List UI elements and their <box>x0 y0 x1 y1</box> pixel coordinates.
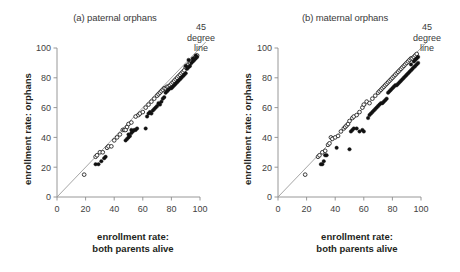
y-axis-ticks: 020406080100 <box>257 43 278 202</box>
y-tick-label: 20 <box>41 163 51 173</box>
y-tick-label: 100 <box>257 43 272 53</box>
panel-b-xlabel-line2: both parents alive <box>230 243 460 255</box>
data-point <box>97 162 101 166</box>
y-tick-label: 40 <box>41 133 51 143</box>
y-tick-label: 60 <box>41 103 51 113</box>
series-open-circles <box>303 52 418 176</box>
data-point <box>144 106 148 110</box>
panel-paternal-orphans: (a) paternal orphans 0204060801000204060… <box>0 0 230 272</box>
data-point <box>112 139 116 143</box>
data-point <box>141 110 145 114</box>
data-point <box>109 144 113 148</box>
data-point <box>118 133 122 137</box>
data-point <box>144 127 148 131</box>
annotation-line-1: 45 <box>176 22 226 33</box>
x-tick-label: 40 <box>109 204 119 214</box>
data-point <box>409 63 413 67</box>
data-point <box>184 72 188 76</box>
data-point <box>318 153 322 157</box>
data-point <box>187 58 191 62</box>
x-tick-label: 100 <box>413 204 428 214</box>
data-point <box>355 113 359 117</box>
data-point <box>328 142 332 146</box>
y-tick-label: 60 <box>262 103 272 113</box>
x-tick-label: 100 <box>192 204 207 214</box>
x-tick-label: 80 <box>387 204 397 214</box>
x-tick-label: 20 <box>302 204 312 214</box>
data-point <box>101 150 105 154</box>
data-point <box>150 100 154 104</box>
data-point <box>336 134 340 138</box>
series-filled-circles <box>319 55 420 166</box>
data-point <box>325 154 329 158</box>
y-tick-label: 20 <box>262 163 272 173</box>
x-tick-label: 0 <box>275 204 280 214</box>
data-point <box>147 103 151 107</box>
panel-b-ylabel: enrollment rate: orphans <box>242 73 253 185</box>
y-tick-label: 40 <box>262 133 272 143</box>
y-tick-label: 0 <box>267 192 272 202</box>
panel-b-45-degree-annotation: 45 degree line <box>402 22 452 54</box>
data-point <box>130 121 134 125</box>
y-tick-label: 0 <box>46 192 51 202</box>
annotation-line-1: 45 <box>402 22 452 33</box>
x-axis-ticks: 020406080100 <box>54 197 207 214</box>
data-point <box>362 130 366 134</box>
data-point <box>152 97 156 101</box>
data-point <box>322 159 326 163</box>
data-point <box>115 136 119 140</box>
series-open-circles <box>82 54 199 177</box>
data-point <box>371 97 375 101</box>
data-point <box>416 55 420 59</box>
x-tick-label: 20 <box>81 204 91 214</box>
data-point <box>135 127 139 131</box>
data-point <box>385 97 389 101</box>
data-point <box>348 119 352 123</box>
annotation-line-2: degree <box>402 33 452 44</box>
data-point <box>95 153 99 157</box>
data-point <box>100 159 104 163</box>
data-point <box>323 149 327 153</box>
x-tick-label: 60 <box>138 204 148 214</box>
x-tick-label: 40 <box>330 204 340 214</box>
x-tick-label: 0 <box>54 204 59 214</box>
data-point <box>82 173 86 177</box>
data-point <box>339 130 343 134</box>
panel-a-xlabel-line1: enrollment rate: <box>0 231 248 243</box>
data-point <box>368 101 372 105</box>
y-tick-label: 80 <box>41 73 51 83</box>
panel-a-ylabel: enrollment rate: orphans <box>22 73 33 185</box>
data-point <box>335 146 339 150</box>
figure-container: (a) paternal orphans 0204060801000204060… <box>0 0 460 272</box>
data-point <box>303 173 307 177</box>
annotation-line-2: degree <box>176 33 226 44</box>
data-point <box>348 148 352 152</box>
y-tick-label: 100 <box>36 43 51 53</box>
x-axis-ticks: 020406080100 <box>275 197 428 214</box>
data-point <box>163 95 167 99</box>
panel-a-xlabel-line2: both parents alive <box>0 243 248 255</box>
panel-b-xlabel-line1: enrollment rate: <box>230 231 460 243</box>
data-point <box>355 127 359 131</box>
annotation-line-3: line <box>402 43 452 54</box>
data-point <box>104 155 108 159</box>
panel-maternal-orphans: (b) maternal orphans 0204060801000204060… <box>230 0 460 272</box>
forty-five-degree-line <box>57 42 206 197</box>
data-point <box>358 110 362 114</box>
data-point <box>362 103 366 107</box>
data-point <box>195 55 199 59</box>
annotation-line-3: line <box>176 43 226 54</box>
x-tick-label: 80 <box>166 204 176 214</box>
y-axis-ticks: 020406080100 <box>36 43 57 202</box>
x-tick-label: 60 <box>359 204 369 214</box>
data-point <box>416 61 420 65</box>
data-point <box>373 94 377 98</box>
y-tick-label: 80 <box>262 73 272 83</box>
panel-a-45-degree-annotation: 45 degree line <box>176 22 226 54</box>
